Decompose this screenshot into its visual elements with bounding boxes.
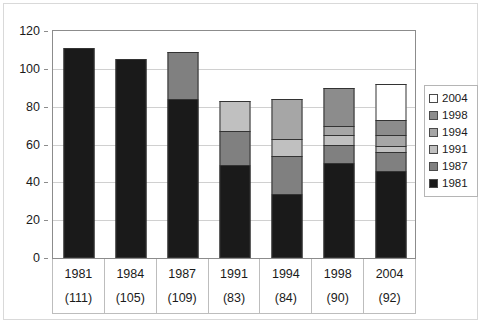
bar-segment-1994[interactable] <box>272 99 303 139</box>
legend-swatch-icon <box>429 162 438 171</box>
y-tick-mark <box>44 107 48 108</box>
y-tick-mark <box>44 145 48 146</box>
x-category-count-label: (109) <box>168 292 197 305</box>
bar-segment-1987[interactable] <box>272 156 303 194</box>
bar-segment-1991[interactable] <box>324 135 355 144</box>
x-category-count-label: (84) <box>275 292 297 305</box>
x-category-count-label: (105) <box>116 292 145 305</box>
stacked-bar[interactable] <box>376 84 407 258</box>
legend-label: 1998 <box>442 110 468 122</box>
y-tick-mark <box>44 182 48 183</box>
bar-segment-1981[interactable] <box>64 48 95 258</box>
bar-segment-1981[interactable] <box>324 163 355 258</box>
plot-area <box>52 30 416 259</box>
x-axis-cell: 1987(109) <box>157 259 209 313</box>
x-category-label: 1998 <box>324 268 352 281</box>
legend-item-1998[interactable]: 1998 <box>429 107 474 124</box>
y-tick-label: 20 <box>26 214 40 227</box>
y-tick-mark <box>44 69 48 70</box>
bar-segment-1981[interactable] <box>376 171 407 258</box>
legend-swatch-icon <box>429 94 438 103</box>
bar-segment-1987[interactable] <box>376 152 407 171</box>
x-category-count-label: (92) <box>378 292 400 305</box>
y-tick-mark <box>44 258 48 259</box>
x-category-label: 2004 <box>376 268 404 281</box>
chart-legend: 200419981994199119871981 <box>424 85 478 197</box>
x-category-count-label: (111) <box>65 292 92 305</box>
bar-segment-1987[interactable] <box>168 52 199 99</box>
legend-item-1994[interactable]: 1994 <box>429 124 474 141</box>
bar-segment-1987[interactable] <box>220 131 251 165</box>
y-tick-label: 120 <box>19 25 40 38</box>
x-axis-category-table: 1981(111)1984(105)1987(109)1991(83)1994(… <box>52 259 416 314</box>
x-category-count-label: (90) <box>327 292 349 305</box>
bar-segment-1991[interactable] <box>272 139 303 156</box>
bar-segment-1991[interactable] <box>220 101 251 131</box>
bar-segment-1981[interactable] <box>220 165 251 258</box>
stacked-bar[interactable] <box>64 48 95 258</box>
bar-column <box>209 31 261 258</box>
legend-label: 2004 <box>442 93 468 105</box>
bar-segment-1998[interactable] <box>324 88 355 126</box>
bar-segment-1987[interactable] <box>324 145 355 164</box>
stacked-bar[interactable] <box>272 99 303 258</box>
y-tick-label: 100 <box>19 63 40 76</box>
bar-segment-1994[interactable] <box>376 135 407 146</box>
legend-item-2004[interactable]: 2004 <box>429 90 474 107</box>
stacked-bar[interactable] <box>324 88 355 258</box>
x-category-label: 1987 <box>168 268 196 281</box>
y-tick-label: 0 <box>33 252 40 265</box>
x-axis-cell: 1981(111) <box>53 259 105 313</box>
legend-label: 1981 <box>442 178 468 190</box>
legend-swatch-icon <box>429 111 438 120</box>
x-axis-cell: 1984(105) <box>105 259 157 313</box>
bar-column <box>313 31 365 258</box>
bar-column <box>157 31 209 258</box>
bar-segment-1981[interactable] <box>168 99 199 258</box>
x-axis-cell: 1991(83) <box>209 259 261 313</box>
bar-segment-1981[interactable] <box>272 194 303 258</box>
y-axis: 020406080100120 <box>4 4 48 325</box>
x-axis-cell: 2004(92) <box>364 259 415 313</box>
chart-frame: 020406080100120 1981(111)1984(105)1987(1… <box>3 3 478 320</box>
legend-swatch-icon <box>429 179 438 188</box>
bar-column <box>53 31 105 258</box>
legend-label: 1994 <box>442 127 468 139</box>
legend-item-1981[interactable]: 1981 <box>429 175 474 192</box>
stacked-bar[interactable] <box>220 101 251 258</box>
bar-column <box>365 31 417 258</box>
x-category-label: 1991 <box>220 268 248 281</box>
legend-swatch-icon <box>429 128 438 137</box>
legend-swatch-icon <box>429 145 438 154</box>
bar-segment-1998[interactable] <box>376 120 407 135</box>
x-category-label: 1981 <box>65 268 93 281</box>
y-tick-label: 60 <box>26 138 40 151</box>
x-axis-cell: 1994(84) <box>260 259 312 313</box>
legend-item-1987[interactable]: 1987 <box>429 158 474 175</box>
bar-column <box>261 31 313 258</box>
y-tick-label: 40 <box>26 176 40 189</box>
y-tick-mark <box>44 220 48 221</box>
x-category-label: 1994 <box>272 268 300 281</box>
legend-label: 1987 <box>442 161 468 173</box>
legend-item-1991[interactable]: 1991 <box>429 141 474 158</box>
x-category-label: 1984 <box>116 268 144 281</box>
bar-segment-1981[interactable] <box>116 59 147 258</box>
stacked-bar[interactable] <box>168 52 199 258</box>
bar-segment-2004[interactable] <box>376 84 407 120</box>
y-tick-label: 80 <box>26 100 40 113</box>
bar-segment-1994[interactable] <box>324 126 355 135</box>
y-tick-mark <box>44 31 48 32</box>
stacked-bar[interactable] <box>116 59 147 258</box>
x-axis-cell: 1998(90) <box>312 259 364 313</box>
legend-label: 1991 <box>442 144 468 156</box>
bar-column <box>105 31 157 258</box>
x-category-count-label: (83) <box>223 292 245 305</box>
